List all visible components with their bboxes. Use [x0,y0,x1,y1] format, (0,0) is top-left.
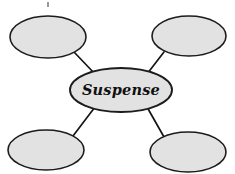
node-center-label: Suspense [82,81,160,98]
node-bottom-left-shape[interactable] [8,130,84,170]
node-top-left-shape[interactable] [10,16,86,58]
connector-center-to-bottom-left [73,107,95,136]
connector-center-to-bottom-right [147,107,164,137]
node-center[interactable]: Suspense [70,68,172,112]
concept-map-canvas: Suspense [0,0,235,174]
node-top-left[interactable] [10,16,86,58]
node-bottom-left[interactable] [8,130,84,170]
ink-speck-artifact [47,2,49,7]
node-top-right[interactable] [152,16,226,56]
node-bottom-right[interactable] [150,132,226,172]
node-bottom-right-shape[interactable] [150,132,226,172]
node-top-right-shape[interactable] [152,16,226,56]
connector-center-to-top-right [147,52,164,74]
connector-center-to-top-left [74,52,95,74]
concept-map-diagram: Suspense [0,0,235,174]
